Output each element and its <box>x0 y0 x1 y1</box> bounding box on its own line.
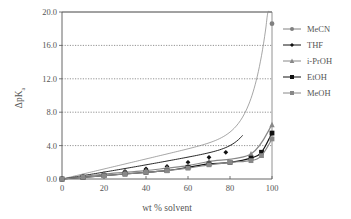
legend-label: MeCN <box>307 24 330 34</box>
triangle-marker-icon <box>269 122 274 127</box>
legend-item-mecn: MeCN <box>283 24 330 34</box>
legend: MeCNTHFi-PrOHEtOHMeOH <box>283 24 332 98</box>
square-marker-icon <box>249 158 254 163</box>
series-line <box>62 11 272 179</box>
series-thf <box>60 135 243 181</box>
legend-label: i-PrOH <box>307 56 332 66</box>
square-marker-icon <box>123 172 128 177</box>
square-marker-icon <box>207 162 212 167</box>
square-marker-icon <box>102 173 107 178</box>
gridlines <box>62 12 272 146</box>
series-meoh <box>60 137 275 182</box>
y-tick-label: 4.0 <box>46 141 57 151</box>
square-marker-icon <box>270 131 275 136</box>
x-tick-label: 20 <box>100 183 109 193</box>
y-tick-label: 20.0 <box>42 7 57 17</box>
legend-item-i-proh: i-PrOH <box>283 56 332 66</box>
series-mecn <box>60 11 275 181</box>
diamond-marker-icon <box>290 43 294 47</box>
y-tick-label: 12.0 <box>42 74 57 84</box>
square-marker-icon <box>228 160 233 165</box>
square-marker-icon <box>259 153 264 158</box>
y-tick-label: 8.0 <box>46 107 57 117</box>
legend-label: EtOH <box>307 72 327 82</box>
triangle-marker-icon <box>248 151 253 156</box>
x-tick-label: 100 <box>266 183 279 193</box>
square-marker-icon <box>290 75 294 79</box>
x-axis-label: wt % solvent <box>142 203 192 213</box>
legend-label: MeOH <box>307 88 331 98</box>
x-tick-label: 0 <box>60 183 64 193</box>
y-tick-label: 16.0 <box>42 40 57 50</box>
chart-container: 0.04.08.012.016.020.0 020406080100 wt % … <box>0 0 351 219</box>
square-marker-icon <box>144 170 149 175</box>
square-marker-icon <box>60 177 65 182</box>
y-axis-label: ΔpKa <box>14 87 26 108</box>
data-series <box>59 11 274 181</box>
diamond-marker-icon <box>223 150 228 155</box>
line-chart: 0.04.08.012.016.020.0 020406080100 wt % … <box>0 0 351 219</box>
square-marker-icon <box>290 91 294 95</box>
legend-item-etoh: EtOH <box>283 72 327 82</box>
x-tick-label: 40 <box>142 183 151 193</box>
circle-marker-icon <box>270 21 275 26</box>
square-marker-icon <box>270 137 275 142</box>
square-marker-icon <box>186 166 191 171</box>
legend-label: THF <box>307 40 323 50</box>
square-marker-icon <box>81 175 86 180</box>
y-tick-label: 0.0 <box>46 174 57 184</box>
legend-item-meoh: MeOH <box>283 88 331 98</box>
y-axis-ticks: 0.04.08.012.016.020.0 <box>42 7 62 184</box>
square-marker-icon <box>165 168 170 173</box>
circle-marker-icon <box>290 27 294 31</box>
legend-item-thf: THF <box>283 40 323 50</box>
x-tick-label: 60 <box>184 183 193 193</box>
x-tick-label: 80 <box>226 183 235 193</box>
